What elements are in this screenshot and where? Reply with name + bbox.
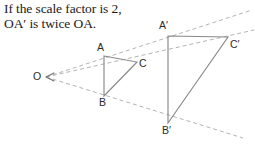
vertex-label-C-prime: C′	[230, 38, 240, 50]
ray-O-to-A-prime	[46, 10, 252, 77]
vertex-label-B: B	[99, 96, 106, 108]
diagram-page: If the scale factor is 2, OA′ is twice O…	[0, 0, 255, 149]
vertex-label-A-prime: A′	[159, 19, 168, 31]
vertex-label-B-prime: B′	[162, 124, 171, 136]
triangle-ABC	[104, 56, 137, 96]
ray-O-to-B-prime	[46, 77, 243, 138]
arrowhead-toward-O-icon	[46, 73, 54, 81]
triangle-A-prime-B-prime-C-prime	[168, 36, 228, 123]
vertex-label-O: O	[33, 70, 41, 82]
vertex-label-C: C	[139, 57, 147, 69]
projection-rays	[46, 10, 254, 138]
vertex-label-A: A	[97, 41, 104, 53]
